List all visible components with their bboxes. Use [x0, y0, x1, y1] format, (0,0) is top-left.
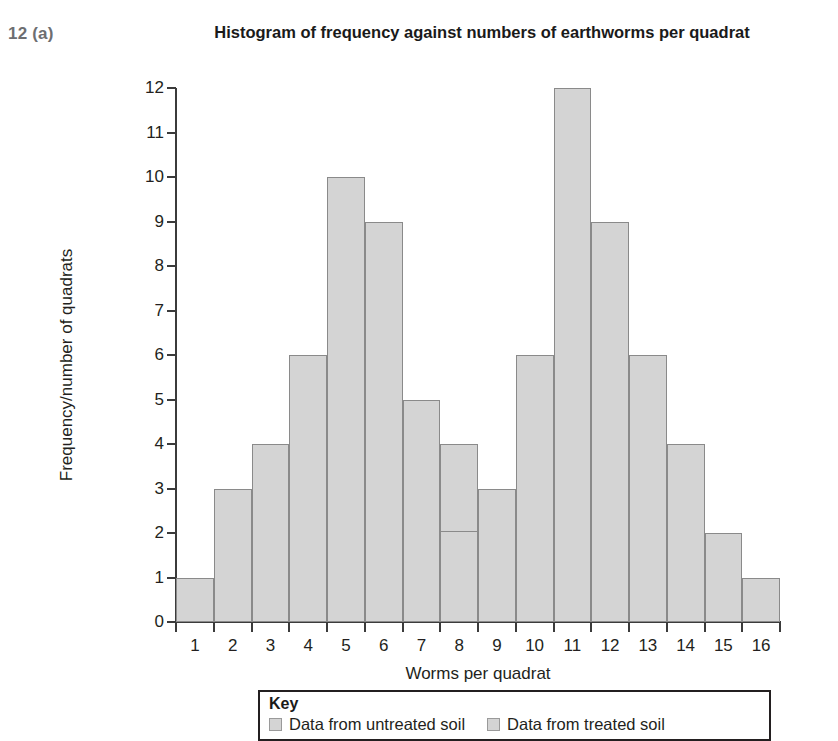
histogram-bar	[176, 578, 214, 623]
histogram-bars	[176, 88, 780, 622]
x-axis-tick-label: 11	[554, 636, 592, 656]
y-axis-tick-label: 0	[126, 612, 164, 632]
x-axis-tick-label: 7	[403, 636, 441, 656]
histogram-bar	[403, 400, 441, 623]
x-axis-tick-label: 10	[516, 636, 554, 656]
x-axis-tick-label: 2	[214, 636, 252, 656]
x-axis-tick-mark	[251, 622, 253, 632]
y-axis-tick-label: 7	[126, 301, 164, 321]
legend-label: Data from untreated soil	[289, 715, 465, 734]
y-axis-tick-mark	[167, 221, 176, 223]
x-axis-tick-mark	[704, 622, 706, 632]
y-axis-tick-mark	[167, 87, 176, 89]
x-axis-tick-mark	[779, 622, 781, 632]
y-axis-tick-label: 5	[126, 390, 164, 410]
x-axis-tick-mark	[175, 622, 177, 632]
x-axis-tick-mark	[741, 622, 743, 632]
y-axis-tick-label: 11	[126, 123, 164, 143]
x-axis-tick-label: 4	[289, 636, 327, 656]
x-axis-tick-mark	[553, 622, 555, 632]
x-axis-tick-mark	[213, 622, 215, 632]
x-axis-tick-label: 6	[365, 636, 403, 656]
x-axis-tick-mark	[590, 622, 592, 632]
x-axis-tick-label: 3	[252, 636, 290, 656]
x-axis-tick-mark	[364, 622, 366, 632]
legend-entry: Data from untreated soil	[269, 715, 465, 734]
y-axis-tick-label: 6	[126, 345, 164, 365]
histogram-bar	[667, 444, 705, 622]
legend-swatch-icon	[269, 718, 282, 731]
x-axis-tick-mark	[402, 622, 404, 632]
x-axis-tick-mark	[288, 622, 290, 632]
histogram-bar	[214, 489, 252, 623]
histogram-bar-cell	[742, 88, 780, 622]
x-axis-tick-mark	[326, 622, 328, 632]
x-axis-tick-labels: 12345678910111213141516	[176, 636, 780, 656]
y-axis-tick-label: 3	[126, 479, 164, 499]
histogram-bar	[478, 489, 516, 623]
y-axis-tick-label: 4	[126, 434, 164, 454]
histogram-bar-cell	[327, 88, 365, 622]
histogram-bar	[742, 578, 780, 623]
y-axis-tick-label: 10	[126, 167, 164, 187]
x-axis-tick-mark	[477, 622, 479, 632]
histogram-bar	[629, 355, 667, 622]
y-axis-tick-mark	[167, 354, 176, 356]
chart-title: Histogram of frequency against numbers o…	[176, 22, 788, 44]
plot-area	[176, 88, 780, 622]
histogram-bar-cell	[214, 88, 252, 622]
histogram-bar	[554, 88, 592, 622]
histogram-bar-cell	[516, 88, 554, 622]
legend-swatch-icon	[487, 718, 500, 731]
x-axis-tick-label: 15	[705, 636, 743, 656]
histogram-bar	[440, 444, 478, 622]
y-axis-tick-mark	[167, 265, 176, 267]
legend-entry: Data from treated soil	[487, 715, 665, 734]
legend-label: Data from treated soil	[507, 715, 665, 734]
histogram-bar-cell	[667, 88, 705, 622]
histogram-bar-cell	[629, 88, 667, 622]
y-axis-tick-label: 2	[126, 523, 164, 543]
y-axis-tick-label: 9	[126, 212, 164, 232]
legend-title: Key	[269, 696, 760, 713]
x-axis-tick-label: 1	[176, 636, 214, 656]
y-axis-tick-mark	[167, 488, 176, 490]
x-axis-tick-mark	[439, 622, 441, 632]
x-axis-tick-label: 14	[667, 636, 705, 656]
y-axis-tick-mark	[167, 532, 176, 534]
histogram-bar-cell	[289, 88, 327, 622]
y-axis-tick-mark	[167, 443, 176, 445]
x-axis-tick-label: 5	[327, 636, 365, 656]
histogram-bar-cell	[403, 88, 441, 622]
y-axis-tick-mark	[167, 310, 176, 312]
y-axis-tick-mark	[167, 176, 176, 178]
x-axis-tick-label: 9	[478, 636, 516, 656]
y-axis-tick-mark	[167, 577, 176, 579]
histogram-bar-cell	[365, 88, 403, 622]
histogram-bar	[252, 444, 290, 622]
histogram-bar	[365, 222, 403, 623]
histogram-bar-cell	[591, 88, 629, 622]
histogram-bar	[591, 222, 629, 623]
histogram-bar-cell	[478, 88, 516, 622]
y-axis-tick-label: 8	[126, 256, 164, 276]
x-axis-tick-label: 12	[591, 636, 629, 656]
x-axis-tick-label: 16	[742, 636, 780, 656]
legend-key-box: Key Data from untreated soilData from tr…	[258, 690, 771, 741]
legend-entries: Data from untreated soilData from treate…	[269, 715, 760, 734]
histogram-bar-cell	[176, 88, 214, 622]
y-axis-tick-mark	[167, 132, 176, 134]
histogram-bar-cell	[705, 88, 743, 622]
histogram-bar	[327, 177, 365, 622]
y-axis-tick-labels: 1211109876543210	[120, 0, 164, 741]
x-axis-tick-mark	[515, 622, 517, 632]
histogram-bar	[516, 355, 554, 622]
x-axis-tick-mark	[666, 622, 668, 632]
bar-overlap-divider	[440, 531, 478, 532]
x-axis-title: Worms per quadrat	[176, 664, 780, 684]
histogram-bar-cell	[440, 88, 478, 622]
x-axis-tick-label: 13	[629, 636, 667, 656]
histogram-bar	[705, 533, 743, 622]
y-axis-tick-mark	[167, 399, 176, 401]
histogram-bar	[289, 355, 327, 622]
